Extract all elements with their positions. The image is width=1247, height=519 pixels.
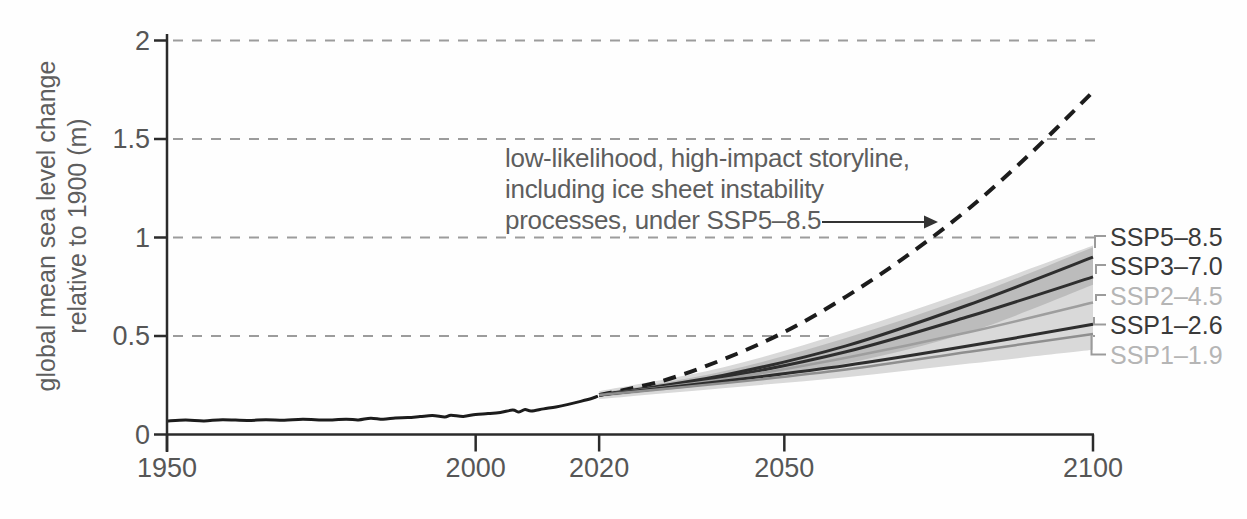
label-leader-ssp1-1.9	[1092, 335, 1107, 355]
series-label-ssp3-7.0: SSP3–7.0	[1110, 252, 1223, 280]
y-axis-title: global mean sea level change relative to…	[31, 61, 93, 392]
storyline-annotation-line1: low-likelihood, high-impact storyline,	[505, 143, 910, 174]
historical-observed-line	[167, 396, 598, 421]
series-label-ssp5-8.5: SSP5–8.5	[1110, 223, 1223, 251]
storyline-annotation-line2: including ice sheet instability	[505, 174, 910, 205]
series-label-ssp1-1.9: SSP1–1.9	[1110, 341, 1223, 369]
label-leader-ssp5-8.5	[1095, 236, 1106, 248]
y-tick-label-2: 2	[90, 26, 150, 57]
sea-level-projection-figure: global mean sea level change relative to…	[0, 0, 1247, 519]
label-leader-ssp1-2.6	[1094, 317, 1106, 325]
storyline-annotation-line3: processes, under SSP5–8.5	[505, 205, 910, 236]
series-label-ssp2-4.5: SSP2–4.5	[1110, 282, 1223, 310]
label-leader-ssp2-4.5	[1096, 295, 1106, 301]
x-tick-label-2000: 2000	[426, 453, 526, 484]
y-tick-label-1.5: 1.5	[90, 124, 150, 155]
annotation-arrow-head	[924, 216, 938, 229]
x-tick-label-2020: 2020	[549, 453, 649, 484]
series-label-ssp1-2.6: SSP1–2.6	[1110, 311, 1223, 339]
y-axis-title-line2: relative to 1900 (m)	[62, 61, 93, 392]
y-tick-label-1: 1	[90, 223, 150, 254]
y-tick-label-0: 0	[90, 420, 150, 451]
label-leader-ssp3-7.0	[1096, 265, 1106, 274]
chart-canvas	[0, 0, 1247, 519]
x-tick-label-1950: 1950	[117, 453, 217, 484]
x-tick-label-2100: 2100	[1043, 453, 1143, 484]
storyline-annotation: low-likelihood, high-impact storyline, i…	[505, 143, 910, 236]
y-tick-label-0.5: 0.5	[90, 321, 150, 352]
y-axis-title-line1: global mean sea level change	[31, 61, 62, 392]
x-tick-label-2050: 2050	[734, 453, 834, 484]
